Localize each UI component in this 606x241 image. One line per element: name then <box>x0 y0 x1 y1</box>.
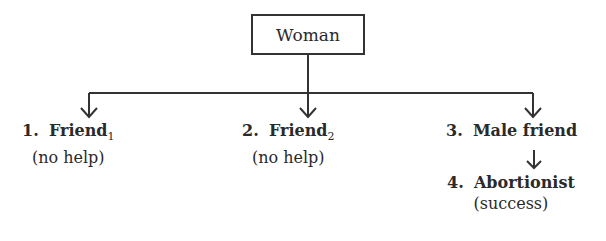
node-name: Friend <box>49 121 108 140</box>
node-friend-1: 1. Friend1 (no help) <box>22 120 114 168</box>
node-outcome: (no help) <box>22 147 114 168</box>
node-subscript: 2 <box>327 130 334 143</box>
node-subscript: 1 <box>107 130 114 143</box>
node-name: Male friend <box>473 121 577 140</box>
node-name: Friend <box>269 121 328 140</box>
node-number: 3. <box>446 121 463 140</box>
node-friend-2: 2. Friend2 (no help) <box>242 120 334 168</box>
root-label: Woman <box>276 25 340 45</box>
node-number: 1. <box>22 121 39 140</box>
node-male-friend: 3. Male friend <box>446 120 577 141</box>
root-node-woman: Woman <box>251 14 365 55</box>
node-outcome: (no help) <box>242 147 334 168</box>
node-number: 2. <box>242 121 259 140</box>
node-number: 4. <box>447 173 464 192</box>
node-abortionist: 4. Abortionist (success) <box>447 172 575 214</box>
node-name: Abortionist <box>474 173 575 192</box>
node-outcome: (success) <box>447 193 575 214</box>
